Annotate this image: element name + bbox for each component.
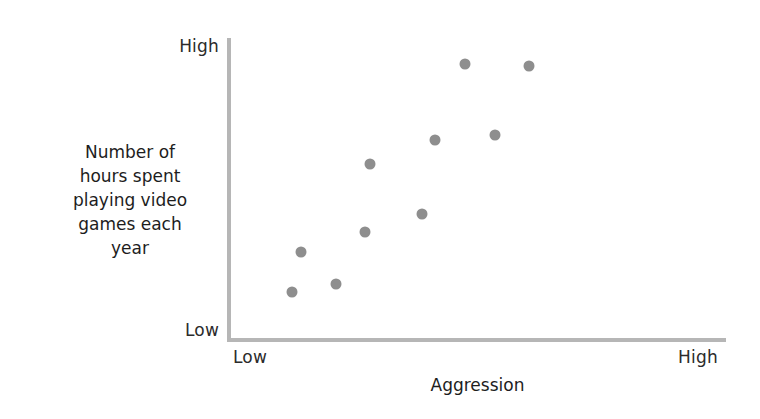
x-axis-low-label: Low: [233, 347, 267, 367]
y-axis-high-label: High: [179, 36, 219, 56]
data-point: [489, 129, 500, 140]
data-point: [417, 209, 428, 220]
data-point: [286, 287, 297, 298]
data-point: [365, 159, 376, 170]
y-axis-low-label: Low: [185, 320, 219, 340]
data-point: [523, 60, 534, 71]
scatter-plot-figure: High Low Low High Number ofhours spentpl…: [0, 0, 760, 419]
x-axis-title: Aggression: [228, 375, 727, 395]
x-axis-line: [227, 338, 726, 342]
data-point: [429, 135, 440, 146]
data-point: [330, 279, 341, 290]
data-point: [460, 59, 471, 70]
y-axis-title-line: year: [40, 236, 220, 260]
y-axis-title-line: playing video: [40, 188, 220, 212]
data-point: [360, 227, 371, 238]
y-axis-title-line: Number of: [40, 140, 220, 164]
y-axis-title-line: hours spent: [40, 164, 220, 188]
y-axis-title-line: games each: [40, 212, 220, 236]
x-axis-high-label: High: [678, 347, 718, 367]
y-axis-title: Number ofhours spentplaying videogames e…: [40, 140, 220, 260]
plot-area: [231, 38, 726, 338]
data-point: [295, 246, 306, 257]
